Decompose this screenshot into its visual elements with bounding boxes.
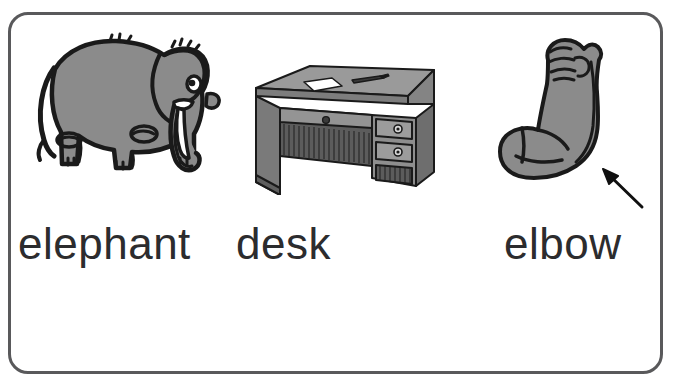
word-label-desk: desk [236, 222, 331, 266]
elbow-pointer-arrow-icon [598, 168, 654, 212]
elephant-illustration [24, 22, 234, 197]
picture-elephant [24, 22, 234, 197]
word-label-elephant: elephant [18, 222, 191, 266]
word-label-elbow: elbow [504, 222, 621, 266]
desk-illustration [248, 60, 440, 195]
worksheet-page: elephant desk elbow [0, 0, 678, 386]
picture-desk [248, 60, 440, 195]
